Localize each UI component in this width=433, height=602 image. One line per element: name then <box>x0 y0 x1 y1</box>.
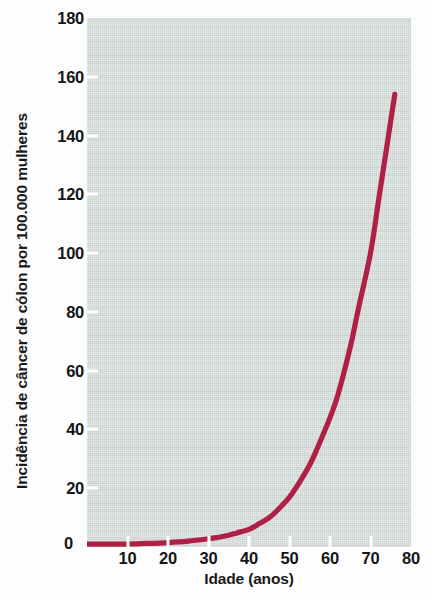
y-axis-tick-mark <box>87 310 98 313</box>
x-axis-tick-mark <box>207 536 210 547</box>
y-axis-tick-label: 40 <box>66 420 84 439</box>
y-axis-tick-label: 160 <box>57 67 84 86</box>
x-axis-tick-mark <box>369 536 372 547</box>
y-axis-tick-mark <box>87 369 98 372</box>
x-axis-tick-mark <box>126 536 129 547</box>
y-axis-tick-label: 80 <box>66 302 84 321</box>
y-axis-tick-mark <box>87 428 98 431</box>
y-axis-tick-label: 100 <box>57 244 84 263</box>
x-axis-tick-label: 80 <box>402 549 420 568</box>
y-axis-tick-mark <box>87 487 98 490</box>
y-axis-title: Incidência de câncer de cólon por 100.00… <box>0 0 44 602</box>
y-axis-tick-mark <box>87 252 98 255</box>
y-axis-tick-mark <box>87 193 98 196</box>
y-axis-tick-label: 120 <box>57 185 84 204</box>
x-axis-tick-label: 30 <box>200 549 218 568</box>
x-axis-tick-mark <box>248 536 251 547</box>
x-axis-tick-label: 10 <box>119 549 137 568</box>
x-axis-tick-mark <box>329 536 332 547</box>
x-axis-tick-label: 50 <box>281 549 299 568</box>
x-axis-tick-label: 20 <box>159 549 177 568</box>
y-axis-tick-label: 180 <box>57 9 84 28</box>
y-axis-tick-mark <box>87 134 98 137</box>
x-axis-tick-mark <box>167 536 170 547</box>
data-curve <box>87 18 411 547</box>
x-axis-tick-label: 70 <box>362 549 380 568</box>
y-axis-tick-label: 140 <box>57 126 84 145</box>
x-axis-tick-label: 40 <box>240 549 258 568</box>
x-axis-tick-labels: 1020304050607080 <box>87 549 411 571</box>
y-axis-tick-mark <box>87 75 98 78</box>
x-axis-tick-label: 60 <box>321 549 339 568</box>
plot-area <box>87 18 411 547</box>
x-axis-title: Idade (anos) <box>87 570 411 588</box>
x-axis-tick-mark <box>288 536 291 547</box>
y-axis-tick-label: 60 <box>66 361 84 380</box>
y-axis-tick-labels: 20406080100120140160180 <box>44 0 87 602</box>
y-axis-origin-label: 0 <box>64 534 73 553</box>
y-axis-tick-label: 20 <box>66 479 84 498</box>
chart-figure: Incidência de câncer de cólon por 100.00… <box>0 0 433 602</box>
